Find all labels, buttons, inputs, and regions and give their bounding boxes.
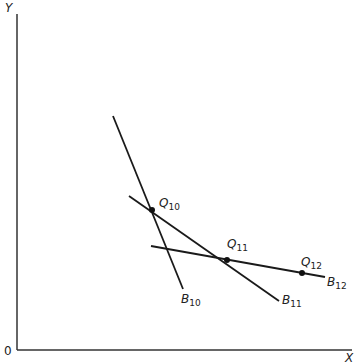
label-q12-sub: 12: [310, 261, 321, 271]
label-q12: Q12: [301, 255, 322, 271]
label-b10: B10: [181, 292, 201, 308]
label-q10: Q10: [159, 196, 180, 212]
label-b11: B11: [282, 293, 302, 309]
label-b12: B12: [327, 275, 347, 291]
label-b10-main: B: [181, 292, 189, 306]
point-q12: [299, 270, 305, 276]
label-q12-main: Q: [301, 255, 310, 269]
label-b10-sub: 10: [189, 298, 201, 308]
label-b11-main: B: [282, 293, 290, 307]
label-q10-main: Q: [159, 196, 168, 210]
y-axis-label: Y: [5, 1, 14, 15]
point-q10: [149, 207, 155, 213]
x-axis-label: X: [344, 351, 354, 364]
label-b12-sub: 12: [335, 281, 346, 291]
label-q10-sub: 10: [168, 202, 180, 212]
label-b11-sub: 11: [290, 299, 301, 309]
label-q11-main: Q: [227, 237, 236, 251]
label-q11: Q11: [227, 237, 248, 253]
origin-label: 0: [4, 344, 12, 358]
diagram-canvas: Y X 0 Q10 Q11 Q12 B10 B11 B12: [0, 0, 359, 364]
label-b12-main: B: [327, 275, 335, 289]
label-q11-sub: 11: [236, 243, 247, 253]
point-q11: [224, 257, 230, 263]
